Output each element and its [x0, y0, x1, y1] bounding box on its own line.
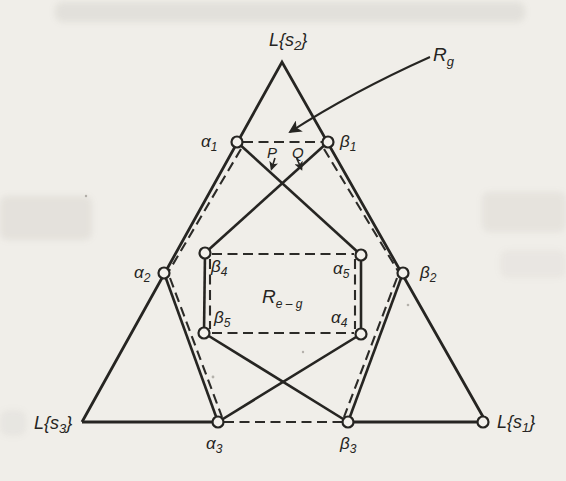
point-alpha1	[232, 137, 243, 148]
label-alpha4: α4	[331, 308, 348, 330]
label-beta2: β2	[419, 263, 437, 285]
line-beta2-beta3	[348, 273, 403, 422]
label-ls2: L{s2}	[269, 30, 307, 53]
point-alpha3	[213, 417, 224, 428]
label-alpha2: α2	[134, 263, 151, 285]
label-alpha1: α1	[201, 132, 217, 154]
label-p: P	[267, 144, 277, 161]
label-ls3: L{s3}	[34, 413, 72, 436]
print-speck	[302, 351, 304, 353]
point-markers	[159, 137, 489, 428]
point-beta2	[398, 268, 409, 279]
triangle-side-edges	[82, 62, 486, 422]
point-beta1	[323, 137, 334, 148]
print-speck	[407, 304, 410, 307]
rg-edge-beta2-beta3	[344, 278, 397, 417]
point-beta5	[199, 328, 210, 339]
scanned-page: L{s2} Rg α1 β1 P Q α2 β2 β4 α5 Re – g β5…	[0, 0, 566, 481]
label-reg: Re – g	[262, 286, 303, 311]
point-beta3	[343, 417, 354, 428]
line-beta4-beta5	[204, 253, 205, 333]
label-rg: Rg	[433, 44, 455, 69]
point-beta4	[200, 248, 211, 259]
rg-edge-alpha2-alpha3	[170, 278, 222, 417]
point-ls1-vertex	[478, 417, 489, 428]
point-alpha5	[356, 250, 367, 261]
label-beta3: β3	[339, 434, 357, 456]
rg-pointer-arrow-icon	[290, 57, 430, 132]
line-alpha4-alpha3	[218, 334, 361, 422]
point-alpha2	[159, 268, 170, 279]
line-beta5-beta3	[204, 333, 348, 422]
label-beta4: β4	[210, 257, 228, 279]
print-speck	[85, 195, 87, 197]
label-alpha3: α3	[206, 434, 223, 456]
print-speck	[212, 376, 215, 379]
label-beta1: β1	[339, 132, 356, 154]
point-alpha4	[356, 329, 367, 340]
label-alpha5: α5	[333, 259, 350, 281]
label-beta5: β5	[213, 308, 231, 330]
solid-lines	[82, 62, 486, 422]
label-ls1: L{s1}	[497, 412, 535, 435]
diagram-canvas: L{s2} Rg α1 β1 P Q α2 β2 β4 α5 Re – g β5…	[0, 0, 566, 481]
label-q: Q	[292, 144, 304, 161]
